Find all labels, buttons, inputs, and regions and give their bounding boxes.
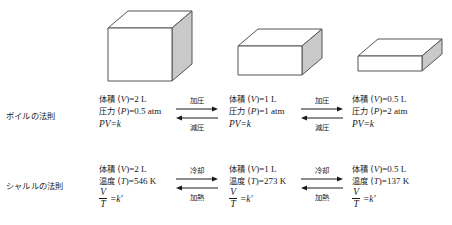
arrow-group-boyle-1: 加圧 減圧 [175,96,219,132]
state-volume-line: 体積 (V)=1 L [229,163,286,175]
state-volume-line: 体積 (V)=0.5 L [352,93,408,105]
state-temperature-line: 温度 (T)=546 K [99,175,156,187]
box-small [350,34,450,88]
arrow-pair-icon [175,106,219,122]
box-large-svg [100,6,200,88]
state-volume-line: 体積 (V)=1 L [229,93,285,105]
state-temperature-line: 温度 (T)=273 K [229,175,286,187]
law-label-boyle: ボイルの法則 [6,109,55,121]
state-pressure-line: 圧力 (P)=0.5 atm [99,105,161,117]
arrow-pair-icon [175,176,219,192]
state-fraction-equation: V T =k' [229,189,286,209]
gas-laws-diagram: ボイルの法則 体積 (V)=2 L 圧力 (P)=0.5 atm PV=k 加圧… [0,0,452,225]
arrow-reverse-label: 加熱 [300,193,344,202]
arrow-forward-label: 加圧 [300,96,344,105]
law-label-charles: シャルルの法則 [6,179,63,191]
state-pressure-line: 圧力 (P)=2 atm [352,105,408,117]
arrow-forward-label: 冷却 [300,166,344,175]
state-fraction-equation: V T =k' [99,189,156,209]
arrow-group-charles-1: 冷却 加熱 [175,166,219,202]
box-medium-svg [230,24,330,88]
state-volume-line: 体積 (V)=0.5 L [352,163,409,175]
state-fraction-equation: V T =k' [352,189,409,209]
law-row-charles: シャルルの法則 体積 (V)=2 L 温度 (T)=546 K V T =k' … [0,163,452,225]
box-medium [230,24,330,88]
state-temperature-line: 温度 (T)=137 K [352,175,409,187]
law-row-boyle: ボイルの法則 体積 (V)=2 L 圧力 (P)=0.5 atm PV=k 加圧… [0,93,452,153]
state-charles-3: 体積 (V)=0.5 L 温度 (T)=137 K V T =k' [352,163,409,209]
box-front-face [358,56,422,71]
arrow-pair-icon [300,106,344,122]
arrow-group-charles-2: 冷却 加熱 [300,166,344,202]
arrow-group-boyle-2: 加圧 減圧 [300,96,344,132]
arrow-reverse-label: 加熱 [175,193,219,202]
box-front-face [238,46,302,75]
fraction: V T [99,188,107,209]
state-charles-1: 体積 (V)=2 L 温度 (T)=546 K V T =k' [99,163,156,209]
fraction: V T [352,188,360,209]
state-equation: PV=k [352,118,408,131]
state-boyle-3: 体積 (V)=0.5 L 圧力 (P)=2 atm PV=k [352,93,408,131]
box-small-svg [350,34,450,88]
state-volume-line: 体積 (V)=2 L [99,93,161,105]
arrow-forward-label: 冷却 [175,166,219,175]
state-pressure-line: 圧力 (P)=1 atm [229,105,285,117]
arrow-reverse-label: 減圧 [300,123,344,132]
box-large [100,6,200,88]
arrow-forward-label: 加圧 [175,96,219,105]
state-equation: PV=k [99,118,161,131]
fraction: V T [229,188,237,209]
state-boyle-1: 体積 (V)=2 L 圧力 (P)=0.5 atm PV=k [99,93,161,131]
state-volume-line: 体積 (V)=2 L [99,163,156,175]
box-front-face [108,28,172,81]
state-equation: PV=k [229,118,285,131]
state-boyle-2: 体積 (V)=1 L 圧力 (P)=1 atm PV=k [229,93,285,131]
arrow-pair-icon [300,176,344,192]
arrow-reverse-label: 減圧 [175,123,219,132]
state-charles-2: 体積 (V)=1 L 温度 (T)=273 K V T =k' [229,163,286,209]
